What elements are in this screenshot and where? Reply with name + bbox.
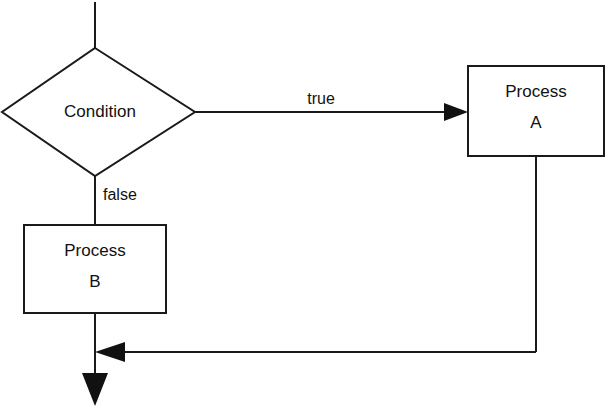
node-process-a[interactable]: Process A [468,66,604,156]
true-branch-label: true [307,90,335,107]
exit-arrow-icon [82,373,108,406]
false-branch-label: false [103,186,137,203]
process-b-label-line2: B [89,272,100,291]
process-a-box-shape [468,66,604,156]
edge-condition-false: false [95,176,137,226]
true-branch-arrow-icon [444,103,468,121]
node-condition[interactable]: Condition [2,48,195,176]
edge-condition-true: true [195,90,468,121]
process-a-label-line2: A [530,113,542,132]
merge-arrow-icon [95,342,125,362]
node-process-b[interactable]: Process B [24,225,166,313]
edge-process-b-exit [82,313,108,406]
process-b-box-shape [24,225,166,313]
process-a-label-line1: Process [505,82,566,101]
flowchart-svg: Condition true Process A false Process B [0,0,612,411]
condition-label: Condition [64,102,136,121]
flowchart-canvas: Condition true Process A false Process B [0,0,612,411]
process-b-label-line1: Process [64,241,125,260]
